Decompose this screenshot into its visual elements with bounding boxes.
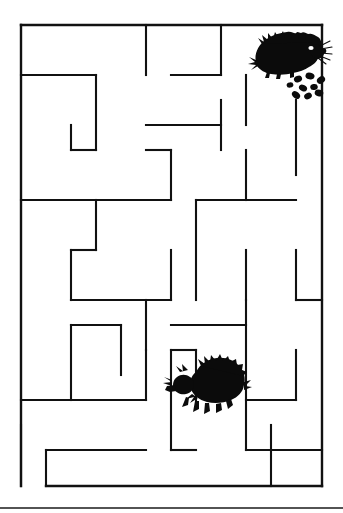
maze-canvas bbox=[0, 0, 343, 513]
hedgehog-goal-eye bbox=[308, 46, 313, 50]
maze-page bbox=[0, 0, 343, 513]
